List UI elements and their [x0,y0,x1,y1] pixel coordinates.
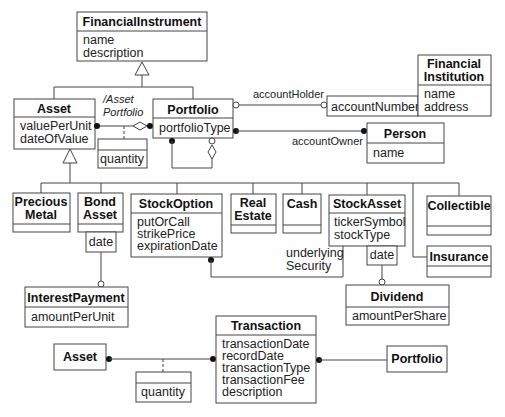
attribute: expirationDate [137,239,218,253]
multiplicity-optional-circle-icon [209,138,215,144]
qualifier-bond-date[interactable]: date [86,232,116,252]
attribute: quantity [141,385,186,399]
multiplicity-many-dot-icon [361,128,367,134]
qualifier: date [89,235,113,249]
class-name: Asset [83,208,118,222]
attribute: description [83,46,143,60]
association-bond-interest [98,252,104,287]
attribute: address [424,100,468,114]
class-name: Real [240,196,266,210]
class-name: Financial [427,57,481,71]
class-name: Person [384,127,426,141]
class-name: Collectible [427,199,490,213]
class-name: Bond [84,195,116,209]
class-name: Transaction [231,319,301,333]
class-dividend[interactable]: Dividend amountPerShare [346,285,449,325]
role-label: underlying [286,246,344,260]
class-stock-asset[interactable]: StockAsset tickerSymbol stockType [329,195,406,246]
attribute: name [83,33,114,47]
qualifier-account-number[interactable]: accountNumber [327,96,419,116]
role-label: accountHolder [253,88,324,100]
association-account-owner: accountOwner [233,128,367,147]
attribute: amountPerUnit [31,310,115,324]
class-name: Metal [25,208,57,222]
class-real-estate[interactable]: Real Estate [231,194,276,233]
attribute: amountPerShare [352,309,447,323]
role-label: accountOwner [292,135,363,147]
class-name: Cash [287,197,318,211]
association-transaction-portfolio [316,357,387,363]
aggregation-diamond-icon [208,145,216,159]
class-name: Portfolio [167,103,219,117]
link-class-quantity[interactable]: quantity [98,139,147,168]
attribute: quantity [100,152,145,166]
class-name: Institution [424,70,484,84]
class-name: Estate [234,209,272,223]
qualifier: date [370,248,394,262]
class-name: InterestPayment [27,291,125,305]
qualifier-stock-date[interactable]: date [367,246,397,265]
qualifier: accountNumber [331,100,419,114]
class-name: Portfolio [391,352,443,366]
class-name: StockOption [139,197,213,211]
link-class-transaction-quantity[interactable]: quantity [136,372,191,402]
attribute: valuePerUnit [20,119,92,133]
uml-class-diagram: FinancialInstrument name description Ass… [0,0,505,417]
role-label: /Asset [102,93,135,105]
class-asset-reference[interactable]: Asset [54,344,106,370]
class-name: Asset [37,102,72,116]
class-name: Asset [63,350,98,364]
attribute: description [222,385,282,399]
attribute: portfolioType [159,121,231,135]
attribute: name [424,87,455,101]
attribute: tickerSymbol [334,215,406,229]
class-stock-option[interactable]: StockOption putOrCall strikePrice expira… [131,194,222,257]
generalization-triangle-icon [63,149,77,163]
class-bond-asset[interactable]: Bond Asset [78,193,123,232]
association-account-holder: accountHolder [233,88,327,108]
class-name: Insurance [429,250,488,264]
multiplicity-many-dot-icon [210,356,216,362]
class-portfolio[interactable]: Portfolio portfolioType [153,99,233,138]
aggregation-diamond-icon [133,122,147,130]
class-collectible[interactable]: Collectible [427,196,491,235]
class-portfolio-reference[interactable]: Portfolio [387,346,447,372]
association-portfolio-self [169,138,216,168]
association-underlying-security: underlying Security [208,246,344,277]
class-name: StockAsset [333,197,402,211]
class-name: FinancialInstrument [83,15,203,29]
class-interest-payment[interactable]: InterestPayment amountPerUnit [25,287,128,327]
class-name: Precious [15,195,68,209]
association-asset-transaction [106,356,216,372]
association-asset-portfolio: /Asset Portfolio [94,93,153,139]
class-asset[interactable]: Asset valuePerUnit dateOfValue [14,99,95,149]
class-name: Dividend [371,290,424,304]
attribute: name [373,146,404,160]
class-insurance[interactable]: Insurance [427,246,491,277]
generalization-triangle-icon [135,62,149,75]
class-transaction[interactable]: Transaction transactionDate recordDate t… [216,316,316,403]
multiplicity-optional-circle-icon [379,279,385,285]
attribute: dateOfValue [20,132,89,146]
class-financial-instrument[interactable]: FinancialInstrument name description [77,12,207,61]
role-label: Portfolio [103,106,143,118]
association-stock-dividend [379,265,385,285]
class-person[interactable]: Person name [367,123,444,163]
multiplicity-optional-circle-icon [98,281,104,287]
multiplicity-many-dot-icon [94,123,100,129]
attribute: stockType [334,228,390,242]
role-label: Security [286,259,332,273]
multiplicity-optional-circle-icon [321,102,327,108]
class-cash[interactable]: Cash [283,194,321,233]
multiplicity-optional-circle-icon [233,102,239,108]
class-financial-institution[interactable]: Financial Institution name address [418,55,491,116]
class-precious-metal[interactable]: Precious Metal [13,193,70,232]
